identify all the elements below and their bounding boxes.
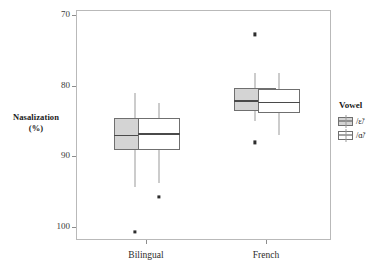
- y-tick-label: 80: [44, 80, 70, 90]
- legend-item-label: /ɛ̃/: [356, 116, 364, 126]
- boxplot-figure: Nasalization (%) 100908070 BilingualFren…: [0, 0, 387, 265]
- whisker-lower: [135, 150, 136, 187]
- legend-items: /ɛ̃//ɑ̃/: [338, 115, 387, 141]
- whisker-upper: [255, 73, 256, 88]
- plot-area: [76, 10, 331, 240]
- y-tick-label: 70: [44, 9, 70, 19]
- legend-item-label: /ɑ̃/: [356, 130, 365, 140]
- outlier-point: [133, 230, 136, 233]
- legend: Vowel /ɛ̃//ɑ̃/: [338, 100, 387, 143]
- legend-item[interactable]: /ɛ̃/: [338, 115, 387, 127]
- y-tick-label: 100: [44, 221, 70, 231]
- y-axis-label: Nasalization (%): [0, 112, 72, 134]
- legend-swatch-icon: [338, 131, 353, 140]
- boxplot-median: [258, 102, 300, 104]
- y-axis-label-line1: Nasalization: [0, 112, 72, 123]
- legend-title: Vowel: [338, 100, 387, 110]
- legend-item[interactable]: /ɑ̃/: [338, 129, 387, 141]
- outlier-point: [253, 141, 256, 144]
- x-tick-label: Bilingual: [128, 250, 163, 260]
- whisker-lower: [159, 150, 160, 183]
- y-axis-label-line2: (%): [0, 123, 72, 134]
- x-tick-label: French: [253, 250, 279, 260]
- whisker-lower: [279, 113, 280, 136]
- boxplot-median: [138, 133, 180, 135]
- outlier-point: [157, 195, 160, 198]
- whisker-upper: [279, 73, 280, 89]
- whisker-lower: [255, 111, 256, 120]
- x-tick-mark: [266, 240, 267, 244]
- legend-swatch-icon: [338, 117, 353, 126]
- outlier-point: [253, 33, 256, 36]
- whisker-upper: [159, 103, 160, 119]
- whisker-upper: [135, 93, 136, 118]
- x-tick-mark: [146, 240, 147, 244]
- y-tick-label: 90: [44, 150, 70, 160]
